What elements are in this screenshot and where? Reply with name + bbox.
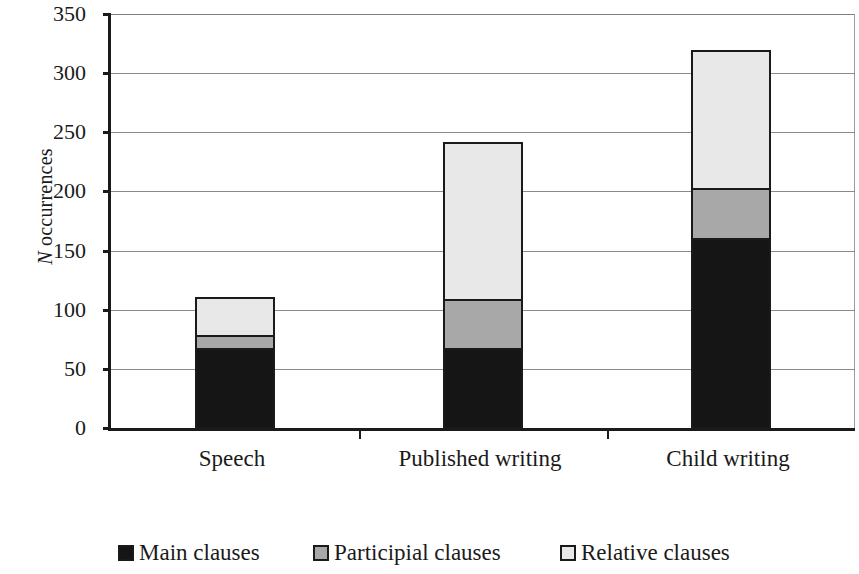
x-axis-category-label: Speech bbox=[108, 444, 356, 474]
plot-area bbox=[108, 14, 855, 431]
y-axis-tick-label: 0 bbox=[24, 417, 86, 439]
y-axis-tick-label: 150 bbox=[24, 240, 86, 262]
stacked-bar[interactable] bbox=[443, 14, 523, 428]
stacked-bar-chart-figure: N occurrences 350300250200150100500 Spee… bbox=[0, 0, 859, 574]
chart-legend: Main clausesParticipial clausesRelative … bbox=[0, 540, 859, 574]
legend-label: Relative clauses bbox=[581, 540, 730, 566]
legend-item[interactable]: Participial clauses bbox=[313, 540, 501, 566]
y-axis-tickmark bbox=[103, 427, 111, 430]
bar-segment[interactable] bbox=[443, 348, 523, 429]
y-axis-tickmark bbox=[103, 13, 111, 16]
y-axis-tick-labels: 350300250200150100500 bbox=[24, 0, 86, 574]
bar-segment[interactable] bbox=[691, 188, 771, 240]
legend-swatch-icon bbox=[313, 545, 329, 561]
bar-segment[interactable] bbox=[691, 50, 771, 190]
stacked-bar[interactable] bbox=[195, 14, 275, 428]
x-axis-divider bbox=[607, 428, 609, 439]
y-axis-tick-label: 300 bbox=[24, 62, 86, 84]
bar-segment[interactable] bbox=[443, 142, 523, 301]
bar-segment[interactable] bbox=[691, 238, 771, 429]
legend-item[interactable]: Relative clauses bbox=[560, 540, 730, 566]
bar-segment[interactable] bbox=[195, 348, 275, 429]
y-axis-tick-label: 50 bbox=[24, 358, 86, 380]
legend-swatch-icon bbox=[560, 545, 576, 561]
y-axis-tickmark bbox=[103, 309, 111, 312]
x-axis-category-labels: SpeechPublished writingChild writing bbox=[108, 444, 852, 478]
y-axis-tickmark bbox=[103, 131, 111, 134]
x-axis-category-label: Published writing bbox=[356, 444, 604, 474]
stacked-bar[interactable] bbox=[691, 14, 771, 428]
y-axis-tickmark bbox=[103, 368, 111, 371]
y-axis-tick-label: 350 bbox=[24, 3, 86, 25]
y-axis-tick-label: 100 bbox=[24, 299, 86, 321]
y-axis-tickmark bbox=[103, 250, 111, 253]
x-axis-divider bbox=[359, 428, 361, 439]
bar-segment[interactable] bbox=[195, 297, 275, 337]
y-axis-tickmark bbox=[103, 190, 111, 193]
x-axis-category-label: Child writing bbox=[604, 444, 852, 474]
y-axis-tick-label: 250 bbox=[24, 121, 86, 143]
legend-item[interactable]: Main clauses bbox=[118, 540, 260, 566]
legend-label: Participial clauses bbox=[334, 540, 501, 566]
y-axis-tickmark bbox=[103, 72, 111, 75]
bar-segment[interactable] bbox=[443, 299, 523, 349]
y-axis-tick-label: 200 bbox=[24, 180, 86, 202]
legend-swatch-icon bbox=[118, 545, 134, 561]
plot-frame-right bbox=[854, 14, 855, 428]
bar-segment[interactable] bbox=[195, 335, 275, 350]
legend-label: Main clauses bbox=[139, 540, 260, 566]
